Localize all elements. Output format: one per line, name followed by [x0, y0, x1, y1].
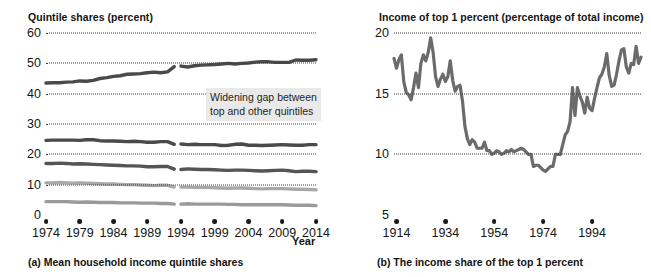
x-axis-tick: 1994: [578, 219, 606, 239]
x-tick-dot-icon: [179, 219, 184, 224]
gridline: [46, 63, 316, 64]
x-axis-tick: 1989: [133, 219, 161, 239]
x-tick-dot-icon: [541, 219, 546, 224]
gridline: [46, 184, 316, 185]
x-axis-tick: 1984: [100, 219, 128, 239]
gridline: [46, 33, 316, 34]
y-axis-tick-label: 30: [27, 118, 41, 131]
x-axis-tick-label: 2004: [235, 227, 263, 240]
x-tick-dot-icon: [492, 219, 497, 224]
x-axis-tick-label: 1994: [578, 227, 606, 240]
gridline: [46, 124, 316, 125]
panel-a-title: Quintile shares (percent): [28, 11, 153, 23]
panel-b-plot-area: 5101520 19141934195419741994: [394, 33, 641, 215]
series-line-lowest-quintile-seg1: [46, 202, 174, 204]
x-axis-tick-label: 1914: [383, 227, 411, 240]
x-axis-tick: 2004: [235, 219, 263, 239]
x-axis-tick: 1979: [66, 219, 94, 239]
panel-b-caption: (b) The income share of the top 1 percen…: [377, 256, 583, 268]
y-axis-tick-label: 15: [375, 87, 389, 100]
x-axis-tick-label: 1934: [431, 227, 459, 240]
x-tick-dot-icon: [246, 219, 251, 224]
x-axis-tick-label: 1974: [32, 227, 60, 240]
panel-a-plot-area: 0102030405060 19741979198419891994199920…: [46, 33, 316, 215]
x-tick-dot-icon: [280, 219, 285, 224]
y-axis-tick-label: 10: [375, 148, 389, 161]
panel-b-leader-lines: [642, 0, 651, 277]
series-line-highest-quintile-seg1: [46, 67, 174, 83]
y-axis-tick-label: 40: [27, 87, 41, 100]
x-axis-tick-label: 1954: [480, 227, 508, 240]
x-axis-tick-label: 1989: [133, 227, 161, 240]
series-line-top-1-percent: [394, 38, 641, 171]
x-axis-tick-label: 1994: [167, 227, 195, 240]
x-tick-dot-icon: [44, 219, 49, 224]
panel-a: Quintile shares (percent) 0102030405060 …: [0, 0, 330, 277]
x-axis-tick-label: 1984: [100, 227, 128, 240]
x-axis-tick: 1974: [529, 219, 557, 239]
x-axis-tick: 1999: [201, 219, 229, 239]
series-line-second-quintile-seg2: [181, 187, 316, 190]
x-axis-tick: 1994: [167, 219, 195, 239]
series-line-lowest-quintile-seg2: [181, 204, 316, 206]
x-tick-dot-icon: [111, 219, 116, 224]
panel-b-series-group: [394, 33, 641, 215]
panel-b-title: Income of top 1 percent (percentage of t…: [379, 11, 644, 23]
x-tick-dot-icon: [78, 219, 83, 224]
x-tick-dot-icon: [443, 219, 448, 224]
x-tick-dot-icon: [394, 219, 399, 224]
y-axis-tick-label: 50: [27, 57, 41, 70]
gridline: [394, 93, 641, 94]
x-axis-tick-label: 1999: [201, 227, 229, 240]
series-line-fourth-quintile-seg1: [46, 140, 174, 145]
x-tick-dot-icon: [213, 219, 218, 224]
x-axis-tick: 1914: [383, 219, 411, 239]
series-line-fourth-quintile-seg2: [181, 144, 316, 146]
panel-a-caption: (a) Mean household income quintile share…: [28, 256, 243, 268]
panel-a-x-axis-title: Year: [292, 235, 315, 247]
x-axis-tick: 1954: [480, 219, 508, 239]
gridline: [46, 154, 316, 155]
x-axis-tick: 1934: [431, 219, 459, 239]
y-axis-tick-label: 10: [27, 178, 41, 191]
series-line-third-quintile-seg2: [181, 169, 316, 172]
gridline: [394, 33, 641, 34]
x-tick-dot-icon: [314, 219, 319, 224]
x-axis-tick: 1974: [32, 219, 60, 239]
x-tick-dot-icon: [145, 219, 150, 224]
figure-root: Quintile shares (percent) 0102030405060 …: [0, 0, 651, 277]
x-axis-tick-label: 1979: [66, 227, 94, 240]
y-axis-tick-label: 20: [375, 27, 389, 40]
x-tick-dot-icon: [590, 219, 595, 224]
panel-b: Income of top 1 percent (percentage of t…: [321, 0, 651, 277]
y-axis-tick-label: 60: [27, 27, 41, 40]
annotation-widening-gap: Widening gap between top and other quint…: [206, 88, 321, 121]
series-line-third-quintile-seg1: [46, 163, 174, 169]
gridline: [394, 154, 641, 155]
x-axis-tick-label: 1974: [529, 227, 557, 240]
y-axis-tick-label: 20: [27, 148, 41, 161]
